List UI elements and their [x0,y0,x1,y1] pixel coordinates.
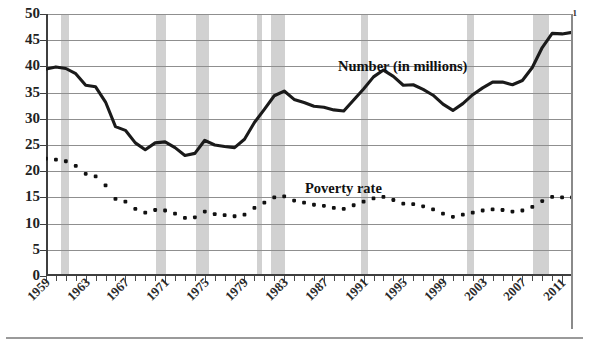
poverty-rate-data-point [520,209,524,213]
x-axis-tick-mark [463,276,464,281]
poverty-rate-data-point [391,198,395,202]
poverty-rate-data-point [282,194,286,198]
poverty-rate-data-point [153,208,157,212]
poverty-rate-data-point [143,211,147,215]
poverty-rate-data-point [124,200,128,204]
poverty-rate-data-point [104,183,108,187]
x-axis-tick-mark [503,276,504,281]
y-axis-tick-label: 15 [10,189,40,204]
poverty-rate-data-point [312,203,316,207]
poverty-rate-data-point [421,204,425,208]
poverty-rate-data-point [262,201,266,205]
x-axis-tick-mark [304,276,305,281]
poverty-rate-data-point [253,206,257,210]
x-axis-tick-mark [215,276,216,281]
footnote-marker: 1 [573,8,578,18]
poverty-rate-data-point [322,204,326,208]
poverty-rate-data-point [243,213,247,217]
poverty-rate-data-point [491,208,495,212]
x-axis-tick-mark [413,276,414,281]
y-axis-tick-label: 45 [10,32,40,47]
series-layer [46,14,572,276]
poverty-rate-data-point [54,158,58,162]
poverty-rate-data-point [451,215,455,219]
y-axis-tick-label: 25 [10,137,40,152]
poverty-rate-data-point [550,195,554,199]
number-series-line [46,32,572,155]
x-axis-tick-mark [135,276,136,281]
poverty-rate-data-point [431,208,435,212]
x-axis-tick-mark [294,276,295,281]
number-series-label: Number (in millions) [338,58,467,75]
poverty-rate-data-point [74,164,78,168]
poverty-rate-data-point [511,210,515,214]
poverty-rate-data-point [352,203,356,207]
poverty-rate-data-point [183,216,187,220]
poverty-rate-data-point [540,199,544,203]
x-axis-tick-mark [542,276,543,281]
x-axis-tick-mark [493,276,494,281]
poverty-rate-data-point [332,206,336,210]
poverty-rate-data-point [362,200,366,204]
poverty-rate-data-point [292,199,296,203]
poverty-rate-data-point [163,209,167,213]
poverty-rate-data-point [441,212,445,216]
poverty-rate-data-point [481,209,485,213]
poverty-rate-data-point [114,197,118,201]
x-axis-tick-mark [423,276,424,281]
poverty-rate-data-point [461,213,465,217]
y-axis-tick-label: 10 [10,216,40,231]
poverty-rate-data-point [411,202,415,206]
poverty-rate-data-point [382,195,386,199]
x-axis-tick-mark [344,276,345,281]
y-axis-tick-label: 30 [10,111,40,126]
poverty-rate-data-point [342,207,346,211]
poverty-rate-data-point [94,175,98,179]
poverty-rate-data-point [471,211,475,215]
x-axis-tick-mark [106,276,107,281]
y-axis-tick-label: 40 [10,58,40,73]
x-axis-tick-mark [383,276,384,281]
x-axis-tick-mark [185,276,186,281]
x-axis-tick-mark [66,276,67,281]
y-axis-tick-label: 5 [10,242,40,257]
poverty-rate-data-point [173,212,177,216]
poverty-chart: 05101520253035404550 1959196319671971197… [0,0,589,348]
poverty-rate-data-point [203,210,207,214]
x-axis-tick-mark [225,276,226,281]
x-axis-tick-mark [254,276,255,281]
x-axis-tick-mark [175,276,176,281]
x-axis-tick-mark [374,276,375,281]
plot-right-edge [571,14,573,329]
bottom-divider-rule [6,337,583,339]
x-axis-tick-mark [56,276,57,281]
poverty-rate-data-point [302,201,306,205]
y-axis-tick-label: 35 [10,85,40,100]
poverty-rate-data-point [84,172,88,176]
poverty-rate-series-label: Poverty rate [305,180,382,197]
series-plot [46,14,572,276]
x-axis-tick-mark [145,276,146,281]
x-axis-tick-mark [453,276,454,281]
poverty-rate-data-point [213,212,217,216]
poverty-rate-data-point [133,207,137,211]
poverty-rate-data-point [401,202,405,206]
poverty-rate-data-point [560,196,564,200]
x-axis-tick-mark [532,276,533,281]
x-axis-tick-mark [96,276,97,281]
y-axis-tick-label: 50 [10,6,40,21]
poverty-rate-data-point [46,157,48,161]
x-axis-labels: 1959196319671971197519791983198719911995… [0,283,589,329]
poverty-rate-data-point [372,197,376,201]
poverty-rate-data-point [530,205,534,209]
poverty-rate-data-point [233,214,237,218]
x-axis-tick-mark [334,276,335,281]
poverty-rate-data-point [64,159,68,163]
y-axis-tick-label: 20 [10,163,40,178]
poverty-rate-data-point [501,208,505,212]
poverty-rate-data-point [223,213,227,217]
poverty-rate-data-point [272,196,276,200]
x-axis-tick-mark [264,276,265,281]
poverty-rate-data-point [193,215,197,219]
